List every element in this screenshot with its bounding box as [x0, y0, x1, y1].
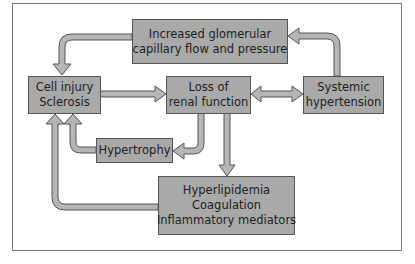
arrow-systemic-to-glomerular	[288, 28, 340, 76]
arrow-loss-systemic-bidirectional	[251, 86, 303, 102]
node-increased-glomerular-pressure: Increased glomerular capillary flow and …	[132, 19, 288, 64]
arrow-loss-to-hyperlipidemia	[219, 113, 235, 176]
node-label-line: Coagulation	[192, 198, 261, 213]
node-label-line: Inflammatory mediators	[157, 213, 296, 228]
node-label-line: hypertension	[306, 95, 382, 110]
arrow-hypertrophy-to-cell-injury	[64, 114, 96, 153]
node-label-line: capillary flow and pressure	[133, 42, 288, 57]
node-cell-injury-sclerosis: Cell injury Sclerosis	[28, 76, 101, 114]
node-hyperlipidemia-coagulation-inflammatory: Hyperlipidemia Coagulation Inflammatory …	[158, 176, 295, 235]
arrow-glomerular-to-cell-injury	[53, 34, 132, 75]
node-hypertrophy: Hypertrophy	[96, 138, 173, 163]
node-label-line: Sclerosis	[39, 95, 90, 110]
node-label-line: Increased glomerular	[149, 27, 271, 42]
node-label-line: Cell injury	[36, 80, 94, 95]
node-loss-of-renal-function: Loss of renal function	[166, 76, 251, 114]
node-label-line: Loss of	[189, 80, 229, 95]
node-label-line: Hyperlipidemia	[183, 183, 270, 198]
arrow-loss-to-hypertrophy	[173, 113, 204, 159]
node-label-line: Hypertrophy	[99, 143, 171, 158]
node-label-line: renal function	[169, 95, 249, 110]
node-label-line: Systemic	[317, 80, 369, 95]
arrow-cell-injury-to-loss	[100, 86, 166, 102]
node-systemic-hypertension: Systemic hypertension	[303, 76, 384, 114]
